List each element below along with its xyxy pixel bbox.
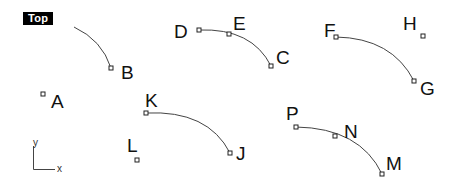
point-L[interactable]: L [127, 135, 139, 162]
point-label: C [276, 47, 290, 68]
point-label: J [236, 143, 246, 164]
point-K[interactable]: K [144, 90, 158, 115]
point-label: L [127, 135, 138, 156]
curve-B[interactable] [74, 27, 111, 68]
point-grip-icon[interactable] [380, 172, 384, 176]
point-label: E [233, 13, 246, 34]
curve-K-J[interactable] [146, 113, 230, 153]
point-label: A [51, 91, 64, 112]
point-label: N [344, 121, 358, 142]
point-label: K [145, 90, 158, 111]
drawing-canvas[interactable]: ABCDEFGHJKLMNP y x [0, 0, 455, 183]
point-M[interactable]: M [380, 153, 402, 176]
point-C[interactable]: C [269, 47, 290, 68]
top-viewport[interactable]: Top ABCDEFGHJKLMNP y x [0, 0, 455, 183]
point-label: M [386, 153, 402, 174]
point-E[interactable]: E [227, 13, 246, 36]
point-grip-icon[interactable] [228, 151, 232, 155]
point-P[interactable]: P [286, 103, 299, 129]
curve-F-G[interactable] [336, 37, 414, 81]
points-layer: ABCDEFGHJKLMNP [41, 13, 435, 176]
point-grip-icon[interactable] [333, 134, 337, 138]
x-axis-label: x [57, 163, 62, 174]
point-B[interactable]: B [109, 62, 134, 83]
point-D[interactable]: D [174, 21, 201, 42]
point-label: F [324, 20, 336, 41]
point-grip-icon[interactable] [269, 64, 273, 68]
point-grip-icon[interactable] [144, 111, 148, 115]
world-axes-icon: y x [33, 137, 62, 174]
point-F[interactable]: F [324, 20, 338, 41]
point-label: G [420, 78, 435, 99]
point-label: B [121, 62, 134, 83]
point-grip-icon[interactable] [421, 34, 425, 38]
curve-D-E-C[interactable] [199, 30, 271, 66]
point-grip-icon[interactable] [294, 125, 298, 129]
y-axis-label: y [33, 137, 38, 148]
point-N[interactable]: N [333, 121, 358, 142]
point-grip-icon[interactable] [412, 79, 416, 83]
point-grip-icon[interactable] [109, 66, 113, 70]
point-grip-icon[interactable] [135, 158, 139, 162]
point-label: H [403, 13, 417, 34]
point-A[interactable]: A [41, 91, 64, 112]
point-J[interactable]: J [228, 143, 246, 164]
point-grip-icon[interactable] [41, 92, 45, 96]
point-G[interactable]: G [412, 78, 435, 99]
point-label: P [286, 103, 299, 124]
point-label: D [174, 21, 188, 42]
point-H[interactable]: H [403, 13, 425, 38]
point-grip-icon[interactable] [227, 32, 231, 36]
point-grip-icon[interactable] [197, 28, 201, 32]
curve-P-N-M[interactable] [296, 127, 382, 174]
